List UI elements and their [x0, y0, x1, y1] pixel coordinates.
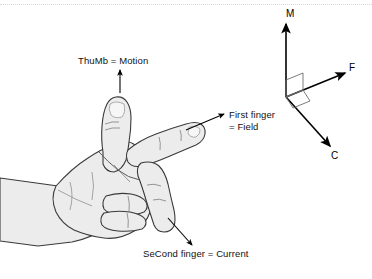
thumb-label: ThuMb = Motion: [78, 55, 148, 67]
second-finger-label: SeCond finger = Current: [143, 248, 249, 260]
thumb-nail: [109, 102, 124, 118]
first-finger-label: First finger = Field: [229, 109, 275, 132]
figure-canvas: ThuMb = Motion First finger = Field SeCo…: [0, 0, 372, 279]
axis-label-f: F: [349, 62, 355, 73]
axis-label-c: C: [331, 150, 338, 161]
little-finger-shape: [101, 211, 146, 231]
axis-label-m: M: [286, 8, 294, 19]
second-finger-callout-arrow: [168, 218, 192, 245]
first-finger-callout-arrow: [186, 114, 224, 130]
diagram-svg: [0, 0, 372, 279]
axis-c-line: [286, 97, 330, 146]
hand-illustration: [0, 97, 205, 246]
axis-triad: [286, 24, 345, 146]
first-finger-label-line2: = Field: [229, 121, 275, 133]
first-finger-label-line1: First finger: [229, 109, 275, 121]
